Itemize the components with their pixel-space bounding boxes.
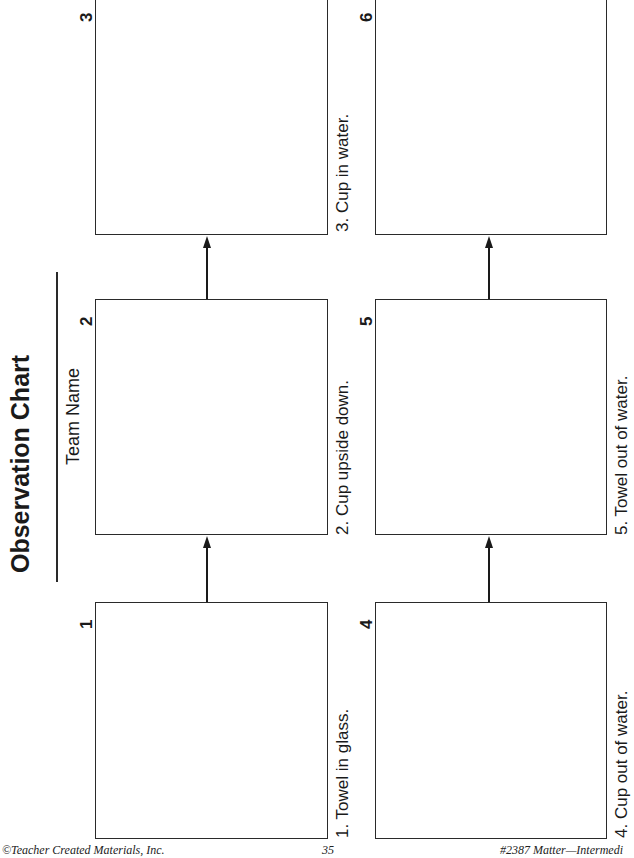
- panel-5-box: [375, 299, 607, 535]
- panel-3-caption: 3. Cup in water.: [333, 114, 353, 232]
- panel-2-caption: 2. Cup upside down.: [333, 380, 353, 535]
- arrow-up-icon: [485, 236, 493, 248]
- panel-6-number: 6: [357, 13, 377, 22]
- arrow-4-to-5: [488, 546, 490, 602]
- panel-5-number: 5: [357, 317, 377, 326]
- panel-3-number: 3: [77, 13, 97, 22]
- panel-2-box: [95, 299, 328, 535]
- panel-4-caption: 4. Cup out of water.: [612, 691, 632, 838]
- team-name-label: Team Name: [63, 368, 84, 465]
- arrow-2-to-3: [206, 246, 208, 299]
- panel-3-box: [95, 0, 328, 235]
- footer-product: #2387 Matter—Intermedi: [500, 843, 623, 858]
- panel-1-caption: 1. Towel in glass.: [333, 709, 353, 838]
- panel-6-box: [375, 0, 607, 235]
- team-name-underline: [56, 272, 58, 582]
- panel-2-number: 2: [77, 317, 97, 326]
- panel-1-box: [95, 602, 328, 839]
- footer-page-number: 35: [322, 843, 334, 858]
- panel-4-number: 4: [357, 620, 377, 629]
- panel-4-box: [375, 602, 607, 839]
- arrow-up-icon: [485, 536, 493, 548]
- panel-1-number: 1: [77, 620, 97, 629]
- panel-5-caption: 5. Towel out of water.: [612, 376, 632, 535]
- arrow-up-icon: [203, 236, 211, 248]
- footer-copyright: ©Teacher Created Materials, Inc.: [2, 843, 165, 858]
- arrow-5-to-6: [488, 246, 490, 299]
- page-title: Observation Chart: [6, 355, 35, 573]
- arrow-1-to-2: [206, 546, 208, 602]
- arrow-up-icon: [203, 536, 211, 548]
